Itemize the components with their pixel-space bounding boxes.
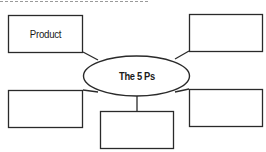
- box-bottom-center-label: [104, 123, 169, 137]
- box-bottom-left-label: [13, 102, 79, 116]
- connector-top-left: [83, 52, 98, 60]
- box-top-right-label: [193, 26, 258, 40]
- box-bottom-right-label: [193, 101, 258, 115]
- connector-bottom-left: [83, 90, 98, 92]
- box-top-left-label: Product: [13, 27, 79, 41]
- connector-top-right: [175, 51, 189, 59]
- center-label: The 5 Ps: [102, 69, 172, 83]
